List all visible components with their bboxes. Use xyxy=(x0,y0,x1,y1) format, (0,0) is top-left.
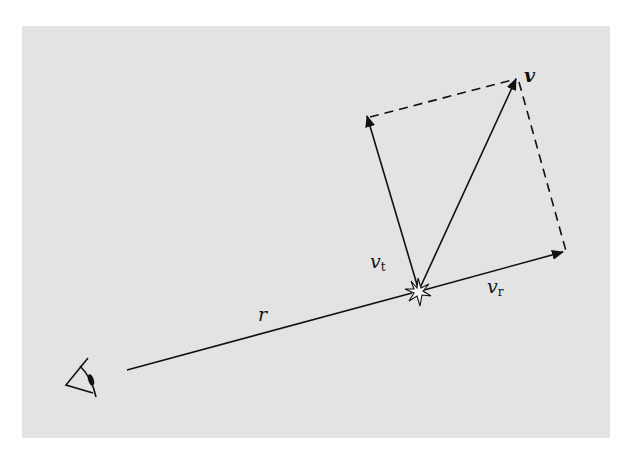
eye-icon xyxy=(66,358,96,397)
vr-label-main: v xyxy=(487,275,498,297)
tangential-velocity-label: vt xyxy=(370,252,386,273)
distance-label-r: r xyxy=(258,305,267,324)
dashed-line-right xyxy=(519,82,566,251)
vt-label-main: v xyxy=(370,250,381,272)
vr-label-subscript: r xyxy=(498,285,504,299)
vt-label-subscript: t xyxy=(381,260,386,274)
star-icon xyxy=(405,278,431,306)
dashed-line-top xyxy=(370,79,516,117)
velocity-label-v: v xyxy=(524,66,535,85)
line-of-sight-r xyxy=(127,293,412,370)
radial-velocity-label: vr xyxy=(487,277,503,298)
total-velocity-vector xyxy=(420,79,516,288)
